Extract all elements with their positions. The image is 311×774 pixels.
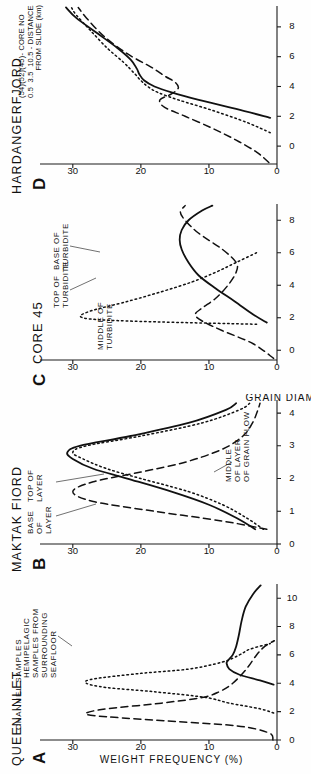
y-tick-label: 10 [204,741,215,752]
panel-b-letter: B [30,558,50,570]
y-tick-label: 30 [68,741,79,752]
panel-d-legend: (54)(52)(45)- CORE NO 0.5 3.5 10.5 - DIS… [18,5,44,98]
x-tick-label: 3 [289,439,294,450]
annotation-leader [56,504,96,516]
panel-queen-inlet: 01020300246810WEIGHT FREQUENCY (%) QUEEN… [0,578,311,774]
panel-hardangerfjord: 010203002468 HARDANGERFJORD D (54)(52)(4… [0,0,311,198]
figure-canvas-rotated: 01020300246810WEIGHT FREQUENCY (%) QUEEN… [0,0,311,774]
x-tick-label: 6 [289,246,294,257]
x-tick-label: 4 [289,677,294,688]
x-tick-label: 0 [289,734,294,745]
y-tick-label: 20 [136,545,147,556]
y-tick-label: 20 [136,741,147,752]
panel-core-45: 010203002468 C CORE 45 MIDDLE OF TURBIDI… [0,198,311,394]
y-tick-label: 30 [68,361,79,372]
figure-root: 01020300246810WEIGHT FREQUENCY (%) QUEEN… [0,0,311,774]
panel-d-plot: 010203002468 [0,0,311,198]
x-tick-label: 1 [289,505,294,516]
y-tick-label: 10 [204,361,215,372]
x-tick-label: 0 [289,140,294,151]
annotation-leader [70,246,100,252]
x-tick-label: 2 [289,472,294,483]
curve-solid [66,7,270,117]
curve-dotted [71,7,270,132]
annotation-middle-of-layer: MIDDLE OF LAYER OF GRAIN FLOW [224,412,251,483]
x-tick-label: 4 [289,279,294,290]
annotation-base-of-turbidite: BASE OF TURBIDITE [52,223,70,270]
panel-d-letter: D [30,178,50,190]
x-tick-label: 8 [289,214,294,225]
panel-c-plot: 010203002468 [0,198,311,394]
y-tick-label: 10 [204,165,215,176]
curve-dashed [78,7,269,162]
x-tick-label: 6 [289,50,294,61]
curve-dashed [86,641,275,740]
y-tick-label: 0 [274,741,279,752]
curve-dashed [180,206,273,359]
x-tick-label: 8 [289,620,294,631]
panel-c-subtitle: CORE 45 [30,301,45,364]
y-axis-title: WEIGHT FREQUENCY (%) [100,754,244,765]
y-tick-label: 0 [274,361,279,372]
panel-maktak-fiord: 010203001234GRAIN DIAMETER (ϕ) MAKTAK FI… [0,394,311,578]
x-tick-label: 4 [289,80,294,91]
panel-c-letter: C [30,374,50,386]
y-tick-label: 10 [204,545,215,556]
x-tick-label: 2 [289,705,294,716]
x-tick-label: 0 [289,344,294,355]
curve-solid [180,206,267,323]
annotation-hemipelagic: HEMIPELAGIC SAMPLES FROM SURROUNDING SEA… [22,608,58,678]
annotation-top-of-layer: TOP OF LAYER [26,470,44,503]
panel-b-plot: 010203001234GRAIN DIAMETER (ϕ) [0,394,311,578]
y-tick-label: 20 [136,361,147,372]
curve-solid [227,585,274,684]
annotation-leader [58,636,72,646]
y-tick-label: 30 [68,545,79,556]
x-tick-label: 2 [289,311,294,322]
x-tick-label: 10 [287,592,298,603]
annotation-middle-of-turbidite: MIDDLE OF TURBIDITE [96,302,114,350]
x-tick-label: 4 [289,407,294,418]
annotation-base-of-layer: BASE OF LAYER [26,506,53,534]
curve-dotted [85,644,273,713]
panel-a-letter: A [30,752,50,764]
x-tick-label: 0 [289,538,294,549]
x-tick-label: 6 [289,648,294,659]
panel-b-title: MAKTAK FIORD [10,466,24,572]
x-axis-title: GRAIN DIAMETER (ϕ) [245,394,311,403]
y-tick-label: 0 [274,165,279,176]
y-tick-label: 30 [68,165,79,176]
annotation-leader [56,474,104,482]
x-tick-label: 8 [289,20,294,31]
y-tick-label: 20 [136,165,147,176]
x-tick-label: 2 [289,110,294,121]
y-tick-label: 0 [274,545,279,556]
annotation-leader [70,278,96,290]
